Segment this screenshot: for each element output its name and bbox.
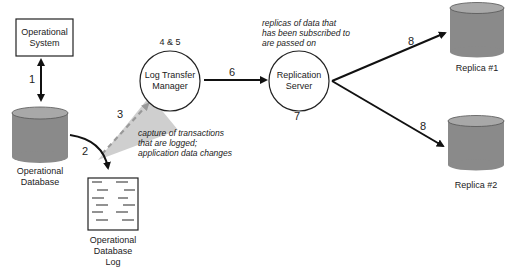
log-line3: Log [80,257,146,267]
step-1-label: 1 [29,73,35,85]
step-6-label: 6 [229,66,235,78]
rs-line1: Replication [269,70,329,81]
replication-diagram: Operational System 1 Operational Databas… [0,0,509,267]
arrow-8-replica-2 [332,81,443,146]
diagram-canvas [0,0,509,267]
capture-line3: application data changes [138,148,232,158]
replica-2-cylinder [448,116,504,171]
replicas-annotation: replicas of data that has been subscribe… [262,18,350,48]
replication-server-label: Replication Server [269,70,329,92]
ltm-line2: Manager [140,81,200,92]
operational-database-log-label: Operational Database Log [80,235,146,267]
step-4-5-label: 4 & 5 [150,37,190,48]
rs-line2: Server [269,81,329,92]
operational-database-label: Operational Database [6,166,74,188]
log-line2: Database [80,246,146,257]
capture-line2: that are logged; [138,138,232,148]
operational-system-label: Operational System [16,27,73,49]
step-2-label: 2 [82,145,88,157]
replicas-line3: are passed on [262,38,350,48]
operational-database-line2: Database [6,177,74,188]
operational-system-line2: System [16,38,73,49]
operational-system-line1: Operational [16,27,73,38]
ltm-line1: Log Transfer [140,70,200,81]
capture-annotation: capture of transactions that are logged;… [138,128,232,158]
replica-1-cylinder [450,3,504,58]
replica-1-label: Replica #1 [450,63,504,74]
operational-database-cylinder [12,107,68,163]
step-8b-label: 8 [420,120,426,132]
log-line1: Operational [80,235,146,246]
replicas-line1: replicas of data that [262,18,350,28]
log-transfer-manager-label: Log Transfer Manager [140,70,200,92]
step-3-label: 3 [117,108,123,120]
replicas-line2: has been subscribed to [262,28,350,38]
operational-database-line1: Operational [6,166,74,177]
arrow-2 [70,135,108,168]
step-8a-label: 8 [408,35,414,47]
replica-2-label: Replica #2 [448,180,504,191]
operational-database-log-doc [88,178,138,230]
capture-line1: capture of transactions [138,128,232,138]
step-7-label: 7 [294,110,300,122]
